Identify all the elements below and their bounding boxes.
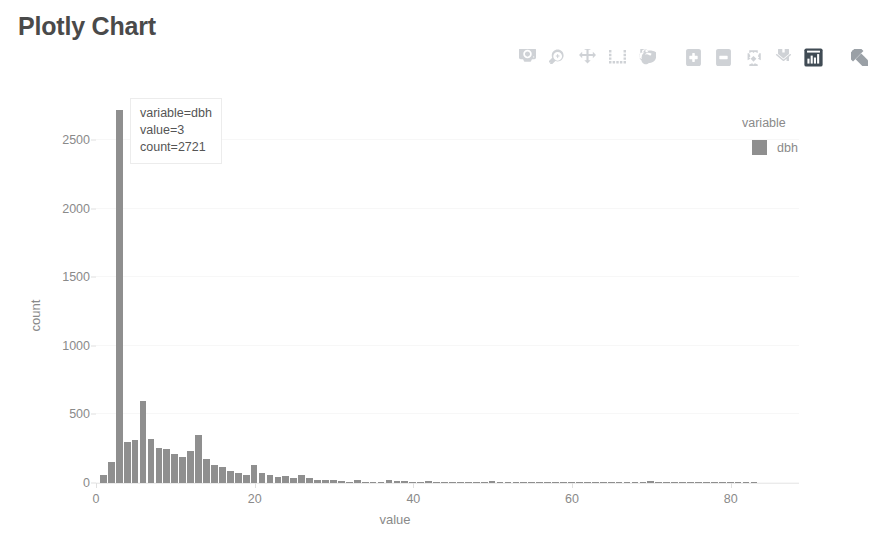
- y-axis-tick-label: 2500: [44, 133, 90, 147]
- y-axis-tick-label: 1000: [44, 339, 90, 353]
- zoom-icon[interactable]: [542, 44, 572, 70]
- tooltip-line-variable: variable=dbh: [140, 105, 212, 122]
- bar[interactable]: [187, 451, 194, 483]
- box-select-icon[interactable]: [602, 44, 632, 70]
- bar[interactable]: [116, 110, 123, 483]
- lasso-select-icon[interactable]: [632, 44, 662, 70]
- gridline: [96, 413, 799, 414]
- bar[interactable]: [156, 448, 163, 483]
- expand-icon[interactable]: [844, 44, 874, 70]
- x-axis-tick-label: 0: [93, 492, 100, 506]
- y-axis-tick-label: 2000: [44, 202, 90, 216]
- bar[interactable]: [298, 475, 305, 483]
- legend[interactable]: variable dbh: [742, 116, 872, 155]
- tooltip-line-count: count=2721: [140, 139, 212, 156]
- reset-axes-home-icon[interactable]: [768, 44, 798, 70]
- zoom-out-icon[interactable]: [708, 44, 738, 70]
- y-axis-tick-label: 500: [44, 407, 90, 421]
- x-axis-tick-mark: [96, 483, 97, 488]
- x-axis-line: [96, 483, 799, 484]
- bar[interactable]: [108, 462, 115, 483]
- bar[interactable]: [132, 440, 139, 483]
- bar[interactable]: [163, 449, 170, 483]
- pan-icon[interactable]: [572, 44, 602, 70]
- x-axis-tick-label: 80: [724, 492, 738, 506]
- gridline: [96, 345, 799, 346]
- y-axis-tick-label: 1500: [44, 270, 90, 284]
- y-axis-ticks: 05001000150020002500: [36, 78, 90, 538]
- x-axis-tick-label: 20: [248, 492, 262, 506]
- plotly-modebar[interactable]: [512, 44, 874, 70]
- x-axis-title: value: [0, 512, 790, 527]
- bar[interactable]: [179, 457, 186, 483]
- x-axis-tick-mark: [731, 483, 732, 488]
- bar[interactable]: [171, 454, 178, 483]
- bar[interactable]: [259, 473, 266, 483]
- y-axis-tick-label: 0: [44, 476, 90, 490]
- bar[interactable]: [100, 475, 107, 483]
- bar[interactable]: [211, 465, 218, 483]
- x-axis-tick-mark: [413, 483, 414, 488]
- bar[interactable]: [235, 473, 242, 483]
- gridline: [96, 276, 799, 277]
- bar[interactable]: [227, 471, 234, 483]
- plotly-logo-icon[interactable]: [798, 44, 828, 70]
- autoscale-icon[interactable]: [738, 44, 768, 70]
- bar[interactable]: [243, 475, 250, 483]
- modebar-separator-2: [828, 44, 844, 70]
- bar[interactable]: [140, 401, 147, 483]
- page-title: Plotly Chart: [18, 12, 156, 41]
- legend-swatch: [752, 140, 767, 155]
- bar[interactable]: [219, 467, 226, 483]
- zoom-in-icon[interactable]: [678, 44, 708, 70]
- x-axis-tick-label: 40: [406, 492, 420, 506]
- x-axis-tick-label: 60: [565, 492, 579, 506]
- tooltip-line-value: value=3: [140, 122, 212, 139]
- gridline: [96, 208, 799, 209]
- bar[interactable]: [267, 475, 274, 483]
- bar[interactable]: [195, 435, 202, 483]
- bar[interactable]: [251, 465, 258, 483]
- hover-tooltip: variable=dbh value=3 count=2721: [130, 98, 222, 164]
- bar[interactable]: [124, 442, 131, 483]
- download-plot-as-png-icon[interactable]: [512, 44, 542, 70]
- bar[interactable]: [148, 439, 155, 483]
- bar[interactable]: [282, 476, 289, 483]
- legend-title: variable: [742, 116, 872, 130]
- x-axis-tick-mark: [572, 483, 573, 488]
- plotly-chart[interactable]: count 05001000150020002500 020406080 val…: [0, 78, 886, 538]
- legend-item-dbh[interactable]: dbh: [742, 140, 872, 155]
- legend-item-label: dbh: [777, 141, 798, 155]
- modebar-separator: [662, 44, 678, 70]
- x-axis-tick-mark: [255, 483, 256, 488]
- bar[interactable]: [203, 459, 210, 483]
